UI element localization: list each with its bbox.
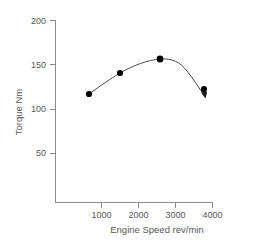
chart-plot-area: 200 150 100 50 1000 2000 3000 4000 Engin…	[0, 0, 254, 243]
data-point-800	[86, 91, 92, 97]
y-axis-title: Torque Nm	[13, 89, 24, 136]
x-tick-label-3000: 3000	[165, 210, 185, 220]
y-tick-label-200: 200	[31, 16, 46, 26]
data-point-1600	[117, 70, 123, 76]
y-tick-label-100: 100	[31, 104, 46, 114]
x-axis-title: Engine Speed rev/min	[110, 224, 203, 235]
y-tick-label-150: 150	[31, 60, 46, 70]
data-point-3500	[201, 86, 207, 92]
torque-curve	[89, 59, 205, 97]
x-tick-label-4000: 4000	[202, 210, 222, 220]
y-tick-label-50: 50	[36, 148, 46, 158]
x-tick-label-1000: 1000	[91, 210, 111, 220]
data-point-2400	[157, 56, 164, 63]
torque-vs-engine-speed-chart: 200 150 100 50 1000 2000 3000 4000 Engin…	[0, 0, 254, 243]
curve-end-arrow-icon	[201, 91, 207, 98]
x-tick-label-2000: 2000	[128, 210, 148, 220]
